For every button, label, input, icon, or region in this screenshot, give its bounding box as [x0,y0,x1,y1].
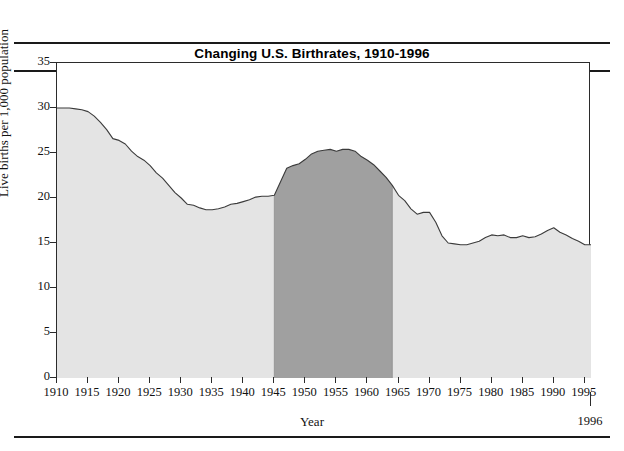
x-axis-tick-mark [180,377,181,383]
chart-page: Changing U.S. Birthrates, 1910-1996 0510… [0,0,624,451]
x-axis-tick-label: 1995 [564,386,604,399]
x-axis-tick-mark [56,377,57,383]
x-axis-tick-mark [491,377,492,383]
x-axis-tick-mark [522,377,523,383]
x-axis-tick-mark [553,377,554,383]
x-axis-tick-mark [149,377,150,383]
x-axis-title: Year [0,414,624,430]
x-axis-tick-mark [429,377,430,383]
x-axis-tick-mark [335,377,336,383]
x-axis-tick-mark [398,377,399,383]
x-axis-tick-mark [211,377,212,383]
x-axis-tick-mark [242,377,243,383]
x-axis-end-tick [590,392,591,406]
x-axis-ticks: 1910191519201925193019351940194519501955… [0,0,624,451]
x-axis-tick-mark [584,377,585,383]
bottom-divider-rule [14,436,610,438]
x-axis-tick-mark [87,377,88,383]
x-axis-tick-mark [460,377,461,383]
x-axis-tick-mark [273,377,274,383]
x-axis-tick-mark [304,377,305,383]
x-axis-tick-mark [366,377,367,383]
x-axis-tick-mark [118,377,119,383]
x-axis-end-label: 1996 [565,414,615,429]
